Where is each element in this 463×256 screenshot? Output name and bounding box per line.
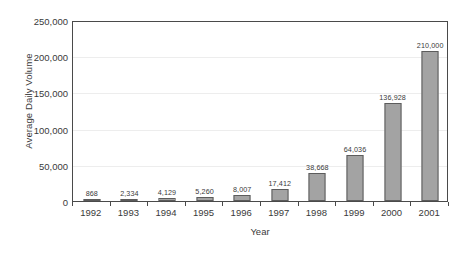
y-axis-tick-label: 200,000 — [28, 52, 68, 63]
x-axis-tick-label: 1996 — [231, 207, 252, 218]
x-axis-tick-label: 1992 — [80, 207, 101, 218]
x-axis-tick-label: 2001 — [419, 207, 440, 218]
bar-slot: 210,000 — [411, 22, 449, 201]
x-axis-tick-labels: 1992199319941995199619971998199920002001 — [72, 207, 448, 223]
x-axis-tick — [72, 202, 73, 206]
x-axis-tick-label: 1998 — [306, 207, 327, 218]
x-axis-tick-label: 1997 — [268, 207, 289, 218]
bar-slot: 2,334 — [111, 22, 149, 201]
bar-value-label: 210,000 — [417, 41, 444, 50]
bar[interactable] — [158, 198, 175, 201]
bar-value-label: 17,412 — [269, 179, 292, 188]
y-axis-tick-label: 50,000 — [28, 160, 68, 171]
bar[interactable] — [196, 197, 213, 201]
bar-slot: 136,928 — [374, 22, 412, 201]
y-axis-tick-label: 0 — [28, 197, 68, 208]
bar-value-label: 38,668 — [306, 163, 329, 172]
x-axis-tick-label: 2000 — [381, 207, 402, 218]
x-axis-tick — [335, 202, 336, 206]
x-axis-tick — [185, 202, 186, 206]
bar-slot: 64,036 — [336, 22, 374, 201]
bar-chart: Average Daily Volume 050,000100,000150,0… — [0, 0, 463, 256]
bars-layer: 8682,3344,1295,2608,00717,41238,66864,03… — [73, 22, 447, 201]
x-axis-tick-label: 1994 — [155, 207, 176, 218]
x-axis-tick — [260, 202, 261, 206]
x-axis-tick — [410, 202, 411, 206]
x-axis-tick — [147, 202, 148, 206]
bar[interactable] — [346, 155, 363, 201]
bar-slot: 868 — [73, 22, 111, 201]
bar-value-label: 64,036 — [344, 145, 367, 154]
bar[interactable] — [121, 199, 138, 201]
y-axis-tick-label: 150,000 — [28, 88, 68, 99]
bar-slot: 8,007 — [223, 22, 261, 201]
x-axis-tick-label: 1999 — [343, 207, 364, 218]
y-axis-tick-labels: 050,000100,000150,000200,000250,000 — [28, 0, 68, 256]
y-axis-tick-label: 250,000 — [28, 16, 68, 27]
x-axis-tick — [373, 202, 374, 206]
bar-slot: 17,412 — [261, 22, 299, 201]
x-axis-tick-label: 1993 — [118, 207, 139, 218]
bar[interactable] — [271, 189, 288, 201]
bar-value-label: 8,007 — [233, 185, 252, 194]
plot-area: 8682,3344,1295,2608,00717,41238,66864,03… — [72, 21, 448, 202]
bar[interactable] — [309, 173, 326, 201]
x-axis-tick — [110, 202, 111, 206]
bar-value-label: 868 — [86, 189, 98, 198]
bar-value-label: 5,260 — [195, 187, 214, 196]
bar-value-label: 2,334 — [120, 189, 139, 198]
x-axis-tick — [298, 202, 299, 206]
x-axis-tick — [448, 202, 449, 206]
y-axis-tick-label: 100,000 — [28, 124, 68, 135]
bar[interactable] — [422, 51, 439, 201]
x-axis-tick-label: 1995 — [193, 207, 214, 218]
bar-value-label: 4,129 — [158, 188, 177, 197]
bar-slot: 38,668 — [299, 22, 337, 201]
bar[interactable] — [234, 195, 251, 201]
x-axis-tick — [222, 202, 223, 206]
bar-slot: 4,129 — [148, 22, 186, 201]
bar[interactable] — [83, 199, 100, 201]
bar[interactable] — [384, 103, 401, 201]
x-axis-title: Year — [72, 226, 448, 237]
bar-value-label: 136,928 — [379, 93, 406, 102]
bar-slot: 5,260 — [186, 22, 224, 201]
